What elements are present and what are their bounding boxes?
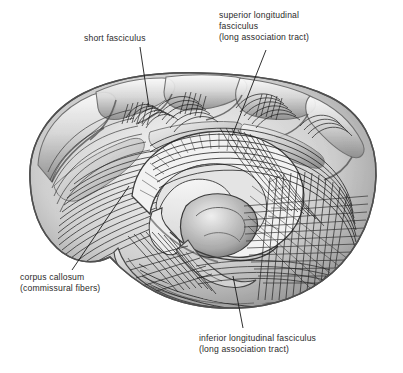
label-superior-longitudinal-fasciculus: superior longitudinal fasciculus (long a… (219, 10, 309, 44)
label-inferior-longitudinal-fasciculus: inferior longitudinal fasciculus (long a… (199, 333, 316, 355)
label-short-fasciculus: short fasciculus (84, 33, 146, 44)
label-corpus-callosum: corpus callosum (commissural fibers) (20, 272, 100, 294)
brain-illustration (0, 0, 403, 373)
brain-fiber-tract-figure: short fasciculus superior longitudinal f… (0, 0, 403, 373)
